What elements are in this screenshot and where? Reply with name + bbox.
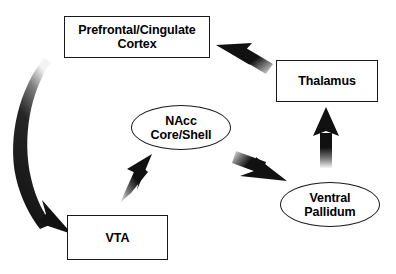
node-label-vta: VTA bbox=[104, 231, 132, 245]
arrow-thalamus-to-cortex bbox=[216, 43, 273, 74]
arrow-nacc-to-ventral-pallidum bbox=[232, 151, 287, 181]
diagram-canvas: Prefrontal/Cingulate Cortex Thalamus NAc… bbox=[0, 0, 396, 274]
arrow-ventral-pallidum-to-thalamus bbox=[313, 107, 339, 168]
node-ventral-pallidum[interactable]: Ventral Pallidum bbox=[280, 182, 380, 227]
node-label-nacc: NAcc Core/Shell bbox=[149, 114, 214, 142]
node-nacc-core-shell[interactable]: NAcc Core/Shell bbox=[131, 105, 231, 150]
node-prefrontal-cingulate-cortex[interactable]: Prefrontal/Cingulate Cortex bbox=[64, 16, 210, 58]
node-label-thalamus: Thalamus bbox=[296, 74, 358, 88]
node-label-ventral-pallidum: Ventral Pallidum bbox=[302, 191, 357, 219]
arrow-cortex-to-vta bbox=[13, 58, 72, 234]
node-thalamus[interactable]: Thalamus bbox=[276, 60, 378, 102]
arrow-vta-to-nacc bbox=[120, 154, 152, 203]
node-vta[interactable]: VTA bbox=[67, 215, 168, 260]
node-label-cortex: Prefrontal/Cingulate Cortex bbox=[76, 23, 197, 51]
